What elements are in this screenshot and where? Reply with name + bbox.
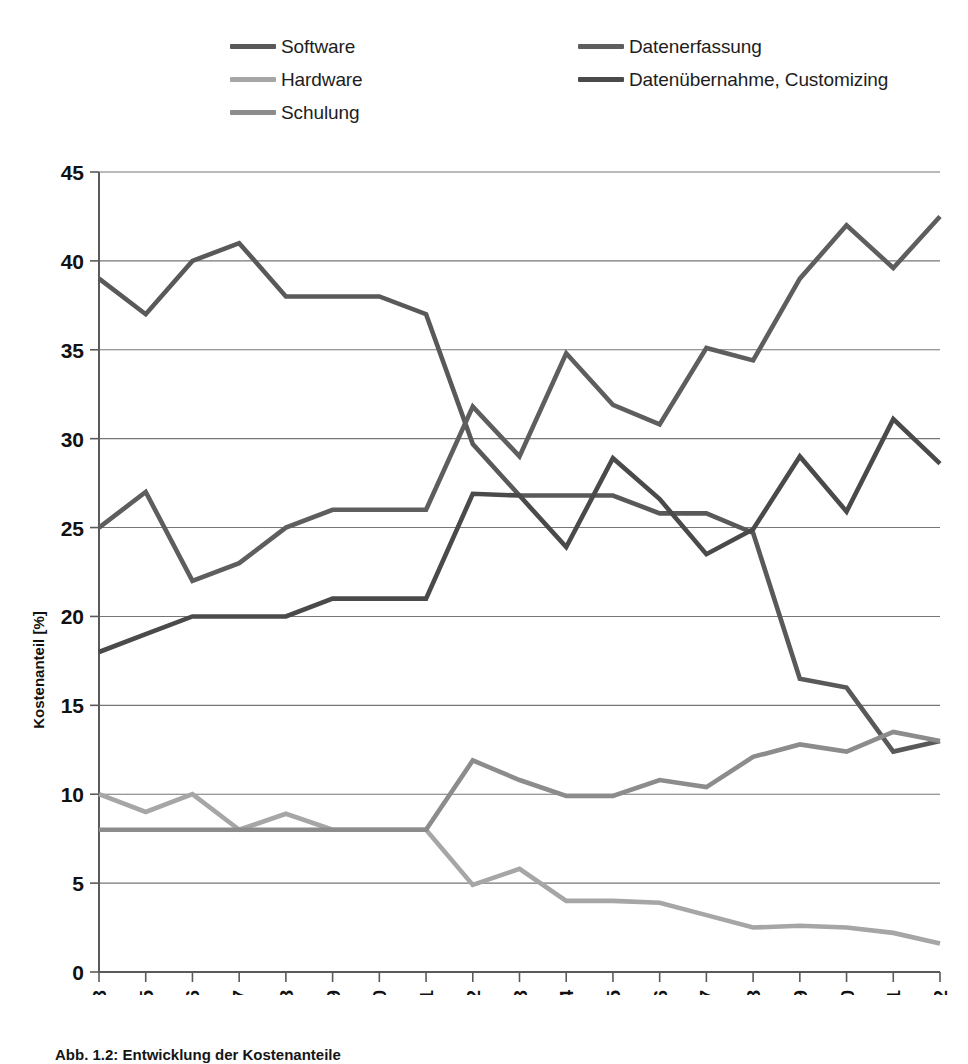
x-tick-label: 2013 (510, 990, 531, 995)
legend-swatch-hardware-icon (230, 77, 276, 82)
legend-item-software: Software (230, 30, 363, 63)
x-tick-label: 2017 (696, 990, 717, 995)
legend-item-schulung: Schulung (230, 96, 363, 129)
x-tick-label: 2008 (276, 990, 297, 995)
y-tick-label: 45 (61, 161, 85, 184)
x-tick-label: 2007 (229, 990, 250, 995)
x-tick-label: 2009 (323, 990, 344, 995)
chart-plot-area: Kostenanteil [%] 05101520253035404520032… (0, 150, 968, 990)
x-tick-label: 2021 (883, 990, 904, 995)
y-tick-label: 20 (61, 605, 84, 628)
figure-caption: Abb. 1.2: Entwicklung der Kostenanteile (55, 1046, 955, 1064)
legend-item-datenerfassung: Datenerfassung (578, 30, 888, 63)
x-tick-label: 2020 (837, 990, 858, 995)
x-tick-label: 2005 (136, 990, 157, 995)
legend-label-software: Software (281, 37, 355, 56)
legend-swatch-software-icon (230, 44, 276, 49)
y-tick-label: 15 (61, 694, 85, 717)
series-line-datenerfassung (99, 216, 940, 580)
y-tick-label: 30 (61, 428, 84, 451)
x-tick-label: 2018 (743, 990, 764, 995)
y-tick-label: 40 (61, 250, 84, 273)
x-tick-label: 2003 (89, 990, 110, 995)
x-tick-label: 2012 (463, 990, 484, 995)
y-tick-label: 10 (61, 783, 84, 806)
legend-label-schulung: Schulung (281, 103, 359, 122)
legend-swatch-schulung-icon (230, 110, 276, 115)
legend-swatch-datenuebernahme-icon (578, 77, 624, 82)
legend-label-hardware: Hardware (281, 70, 363, 89)
series-line-hardware (99, 794, 940, 943)
legend-column-left: Software Hardware Schulung (230, 30, 363, 129)
x-tick-label: 2019 (790, 990, 811, 995)
legend-item-hardware: Hardware (230, 63, 363, 96)
legend-label-datenuebernahme: Datenübernahme, Customizing (629, 70, 888, 89)
y-tick-label: 35 (61, 339, 85, 362)
legend-item-datenuebernahme: Datenübernahme, Customizing (578, 63, 888, 96)
y-tick-label: 25 (61, 517, 85, 540)
chart-svg: 0510152025303540452003200520062007200820… (0, 150, 968, 995)
x-tick-label: 2015 (603, 990, 624, 995)
x-tick-label: 2022 (930, 990, 951, 995)
chart-page: Software Hardware Schulung Datenerfassun… (0, 0, 968, 1064)
x-tick-label: 2011 (416, 990, 437, 995)
legend-label-datenerfassung: Datenerfassung (629, 37, 762, 56)
legend-swatch-datenerfassung-icon (578, 44, 624, 49)
x-tick-label: 2010 (369, 990, 390, 995)
y-tick-label: 0 (72, 961, 84, 984)
series-line-schulung (99, 732, 940, 830)
y-tick-label: 5 (72, 872, 84, 895)
x-tick-label: 2006 (182, 990, 203, 995)
legend-column-right: Datenerfassung Datenübernahme, Customizi… (578, 30, 888, 96)
x-tick-label: 2014 (556, 990, 577, 995)
chart-legend: Software Hardware Schulung Datenerfassun… (230, 30, 930, 140)
x-tick-label: 2016 (650, 990, 671, 995)
